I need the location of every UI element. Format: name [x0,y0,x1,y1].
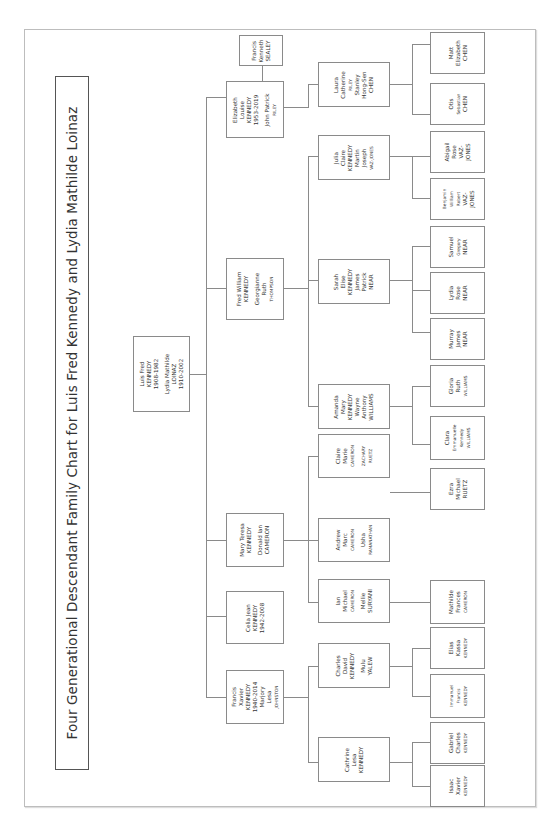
connector-francis [206,697,226,698]
connector-immanuel [412,696,430,697]
connector-cathrine [308,762,318,763]
person-box-elias[interactable]: Elias Kassa KENNEDY [430,627,485,669]
connector-otis [412,114,430,115]
connector-williams-trunk [412,386,413,444]
connector-charles [308,666,318,667]
person-box-root[interactable]: Luis Fred KENNEDY 1908-1982 Lydia Mathil… [133,336,190,412]
chart-title-box: Four Generational Descendant Family Char… [55,76,89,770]
person-box-samuel[interactable]: Samuel Gregory NEAR [430,226,485,268]
connector-francis-trunk [308,666,309,762]
connector-amanda [308,406,318,407]
person-box-mary[interactable]: Mary Teresa KENNEDY Donald Ian CAMERON [226,513,284,567]
person-box-fred[interactable]: Fred William KENNEDY Georgianne Ruth THO… [226,258,284,320]
connector-fred [206,288,226,289]
person-box-ian[interactable]: Ian Michael CAMERON Mellie SURYANI [318,579,390,623]
person-box-francis[interactable]: Francis Xavier KENNEDY 1940-2014 Marjory… [226,670,284,724]
person-box-gabriel[interactable]: Gabriel Charles KENNEDY [430,722,485,764]
connector-gabriel [412,742,430,743]
connector-isaac [412,786,430,787]
connector-near-trunk [412,246,413,332]
connector-ian [308,602,318,603]
person-box-murray[interactable]: Murray James NEAR [430,318,485,360]
connector-claire [308,456,318,457]
connector-cathrine-trunk [412,742,413,786]
person-box-amanda[interactable]: Amanda Mary KENNEDY Wayne Anthony WILLIA… [318,384,390,429]
person-box-claire[interactable]: Claire Marie CAMERON ZACHARY RUETZ [318,434,390,478]
connector-abigail [412,156,430,157]
connector-fred-trunk [308,156,309,406]
connector-sarah [308,280,318,281]
person-box-julia[interactable]: Julia Claire KENNEDY Martin Joseph VAZ-J… [318,135,390,180]
connector-fred-children [284,288,308,289]
chart-title: Four Generational Descendant Family Char… [64,77,80,769]
person-name: Luis Fred KENNEDY 1908-1982 Lydia Mathil… [139,354,185,394]
person-box-otis[interactable]: Otis Sebastian CHEN [430,83,485,125]
connector-gloria [412,386,430,387]
connector-laura [308,84,318,85]
connector-mathilde [390,602,430,603]
person-box-matt[interactable]: Matt Elizabeth CHEN [430,32,485,74]
connector-benjamin [412,198,430,199]
connector-charles-children [390,666,412,667]
person-box-ezra[interactable]: Ezra Michael RUETZ [430,468,485,510]
connector-amanda-children [390,406,412,407]
connector-francis-children [284,697,308,698]
person-box-cathrine[interactable]: Cathrine Lesa KENNEDY [318,737,390,782]
connector-elizabeth [206,97,226,98]
connector-julia-children [390,156,412,157]
connector-ezra [390,492,430,493]
connector-laura-children [390,84,412,85]
connector-elizabeth-children [284,107,308,108]
connector-andrew [308,540,318,541]
person-box-clara[interactable]: Clara Emmanuelle Kennedy WILLIAMS [430,416,485,460]
connector-samuel [412,246,430,247]
connector-sarah-children [390,280,412,281]
connector-vazjones-trunk [412,156,413,198]
person-box-sealey[interactable]: Francis Kenneth SEALEY [239,35,283,66]
person-box-sarah[interactable]: Sarah Elise KENNEDY James Patrick NEAR [318,259,390,304]
person-box-mathilde[interactable]: Mathilde Frances CAMERON [430,580,485,624]
connector-root [190,374,206,375]
person-box-laura[interactable]: Laura Catherine RILEY Stanley Hong-Sen C… [318,62,390,107]
connector-cathrine-children [390,762,412,763]
connector-mary [206,540,226,541]
person-box-andrew[interactable]: Andrew Marc CAMERON Usha RAMANATHAN [318,518,390,562]
connector-clara [412,444,430,445]
connector-charles-trunk [412,648,413,696]
person-box-immanuel[interactable]: Immanuel Francis KENNEDY [430,674,485,718]
person-box-gloria[interactable]: Gloria Ruth WILLIAMS [430,365,485,407]
person-box-elizabeth[interactable]: Elizabeth Louise KENNEDY 1953-2019 John … [226,81,284,138]
connector-lydia [412,290,430,291]
connector-chen-trunk [412,44,413,114]
connector-laura-trunk [308,84,309,108]
connector-murray [412,332,430,333]
person-box-isaac[interactable]: Isaac Xavier KENNEDY [430,765,485,807]
connector-elias [412,648,430,649]
connector-sealey [262,66,263,81]
connector-julia [308,156,318,157]
connector-mary-trunk [308,456,309,602]
connector-celia [206,616,226,617]
person-box-abigail[interactable]: Abigail Rose VAZ- JONES [430,131,485,173]
person-box-lydia[interactable]: Lydia Rose NEAR [430,272,485,314]
person-box-benjamin[interactable]: Benjamin William Robert VAZ- JONES [430,178,485,220]
person-box-celia[interactable]: Celia Jean KENNEDY 1942-2008 [226,591,284,644]
connector-mary-children [284,540,308,541]
connector-matt [412,44,430,45]
person-box-charles[interactable]: Charles David KENNEDY Mulu YALEW [318,643,390,688]
connector-gen2-trunk [206,97,207,697]
